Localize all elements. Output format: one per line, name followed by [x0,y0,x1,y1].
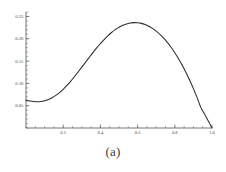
data-series-curve [26,23,212,128]
y-axis-tick-labels: 0.050.100.150.200.25 [15,14,24,108]
axes [26,12,212,128]
y-tick-label: 0.10 [15,81,24,86]
x-tick-label: 0.6 [135,130,141,135]
y-tick-label: 0.25 [15,14,24,19]
y-tick-label: 0.15 [15,59,24,64]
plot-area: 0.050.100.150.200.25 0.20.40.60.81.0 [0,0,226,140]
y-tick-label: 0.20 [15,36,24,41]
x-tick-label: 0.2 [60,130,66,135]
x-tick-label: 0.8 [172,130,178,135]
caption-label: (a) [105,144,120,160]
x-tick-label: 1.0 [209,130,215,135]
y-tick-label: 0.05 [15,103,24,108]
figure-panel: 0.050.100.150.200.25 0.20.40.60.81.0 (a) [0,0,226,172]
figure-caption: (a) [0,140,226,172]
chart-svg: 0.050.100.150.200.25 0.20.40.60.81.0 [0,0,226,140]
x-tick-label: 0.4 [98,130,104,135]
tick-marks [26,12,212,128]
x-axis-tick-labels: 0.20.40.60.81.0 [60,130,215,135]
series-line [26,23,212,128]
